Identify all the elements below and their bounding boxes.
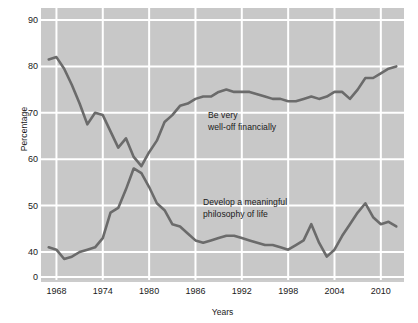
x-tick-label-2010: 2010: [356, 286, 406, 296]
x-tick-label-2004: 2004: [309, 286, 359, 296]
y-tick-label-80: 80: [8, 61, 38, 71]
series-annotation-develop-a-meaningful-philosophy-of-life: Develop a meaningful philosophy of life: [203, 197, 287, 220]
x-tick-label-1968: 1968: [31, 286, 81, 296]
y-tick-label-90: 90: [8, 15, 38, 25]
x-tick-label-1974: 1974: [78, 286, 128, 296]
y-tick-label-50: 50: [8, 201, 38, 211]
y-tick-label-0: 0: [8, 272, 38, 282]
y-tick-label-40: 40: [8, 247, 38, 257]
series-annotation-be-very-well-off-financially: Be very well-off financially: [208, 110, 276, 133]
line-chart-plot: [0, 0, 418, 323]
x-tick-label-1986: 1986: [170, 286, 220, 296]
y-axis-title: Percentage: [19, 89, 29, 169]
chart-container: 0405060708090 19681974198019861992199820…: [0, 0, 418, 323]
x-tick-label-1992: 1992: [217, 286, 267, 296]
plot-background: [41, 8, 404, 280]
x-axis-title: Years: [41, 307, 404, 317]
x-tick-label-1980: 1980: [124, 286, 174, 296]
x-tick-label-1998: 1998: [263, 286, 313, 296]
